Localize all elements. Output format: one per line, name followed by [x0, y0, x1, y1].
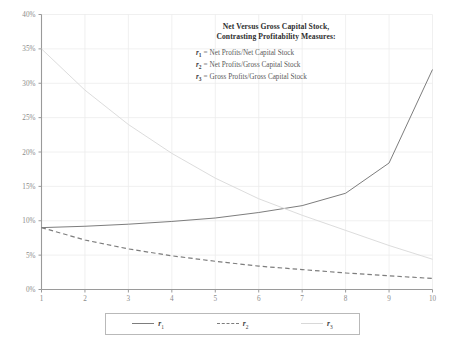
x-axis-tick-label: 5	[213, 295, 217, 303]
series-definitions: r1=Net Profits/Net Capital Stock r2=Net …	[196, 48, 307, 84]
series-symbol-r1: r1	[196, 49, 202, 57]
legend-line-swatch-r3	[301, 323, 323, 324]
y-axis-tick-label: 10%	[22, 217, 35, 225]
y-axis-tick-label: 30%	[22, 80, 35, 88]
legend-label-r3: r3	[327, 319, 333, 330]
series-line-r1	[42, 70, 433, 228]
x-axis-tick-label: 1	[40, 295, 44, 303]
series-definition-r2: r2=Net Profits/Gross Capital Stock	[196, 60, 307, 72]
chart-title: Net Versus Gross Capital Stock, Contrast…	[186, 22, 366, 43]
x-axis-tick-label: 4	[170, 295, 174, 303]
x-axis-tick-label: 7	[300, 295, 304, 303]
definition-equals-3: =	[202, 73, 210, 81]
series-definition-text-r2: Net Profits/Gross Capital Stock	[210, 61, 301, 69]
x-axis-tick-label: 6	[257, 295, 261, 303]
series-symbol-r2: r2	[196, 61, 202, 69]
series-definition-r3: r3=Gross Profits/Gross Capital Stock	[196, 72, 307, 84]
legend-item-r3[interactable]: r3	[275, 319, 359, 330]
legend-label-r2: r2	[243, 319, 249, 330]
series-definition-r1: r1=Net Profits/Net Capital Stock	[196, 48, 307, 60]
legend-line-swatch-r2	[217, 323, 239, 324]
chart-title-line-2: Contrasting Profitability Measures:	[186, 32, 366, 42]
x-axis-tick-label: 10	[429, 295, 437, 303]
series-line-r2	[42, 228, 433, 279]
legend-line-swatch-r1	[132, 323, 154, 324]
legend-label-r1: r1	[158, 319, 164, 330]
x-axis-tick-label: 3	[127, 295, 131, 303]
y-axis-tick-label: 0%	[26, 286, 36, 294]
series-definition-text-r1: Net Profits/Net Capital Stock	[210, 49, 294, 57]
y-axis-tick-label: 40%	[22, 11, 35, 19]
chart-legend: r1 r2 r3	[105, 313, 360, 335]
x-axis-tick-label: 9	[387, 295, 391, 303]
x-axis-tick-label: 2	[83, 295, 87, 303]
chart-title-line-1: Net Versus Gross Capital Stock,	[186, 22, 366, 32]
definition-equals-2: =	[202, 61, 210, 69]
y-axis-tick-label: 35%	[22, 45, 35, 53]
chart-container: 0%5%10%15%20%25%30%35%40%12345678910 Net…	[0, 0, 455, 342]
series-definition-text-r3: Gross Profits/Gross Capital Stock	[210, 73, 307, 81]
y-axis-tick-label: 5%	[26, 252, 36, 260]
x-axis-tick-label: 8	[344, 295, 348, 303]
definition-equals-1: =	[202, 49, 210, 57]
y-axis-tick-label: 20%	[22, 149, 35, 157]
y-axis-tick-label: 15%	[22, 183, 35, 191]
y-axis-tick-label: 25%	[22, 114, 35, 122]
series-symbol-r3: r3	[196, 73, 202, 81]
legend-item-r1[interactable]: r1	[106, 319, 190, 330]
legend-item-r2[interactable]: r2	[190, 319, 274, 330]
